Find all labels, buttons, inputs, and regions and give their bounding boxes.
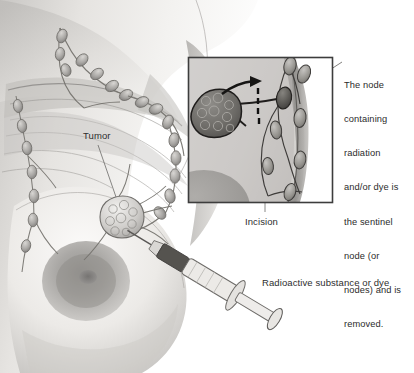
illustration-canvas: Tumor Incision Radioactive substance or … bbox=[0, 0, 414, 373]
callout-line: and/or dye is bbox=[344, 182, 401, 193]
callout-line: removed. bbox=[344, 319, 401, 330]
incision-label: Incision bbox=[245, 216, 278, 227]
sentinel-node-callout-text: The node containing radiation and/or dye… bbox=[344, 57, 401, 354]
callout-line: nodes) and is bbox=[344, 285, 401, 296]
callout-line: radiation bbox=[344, 148, 401, 159]
callout-line: containing bbox=[344, 114, 401, 125]
callout-line: node (or bbox=[344, 251, 401, 262]
callout-line: The node bbox=[344, 80, 401, 91]
callout-line: the sentinel bbox=[344, 217, 401, 228]
tumor-label: Tumor bbox=[83, 130, 111, 141]
inset-breast-shadow bbox=[158, 170, 250, 246]
